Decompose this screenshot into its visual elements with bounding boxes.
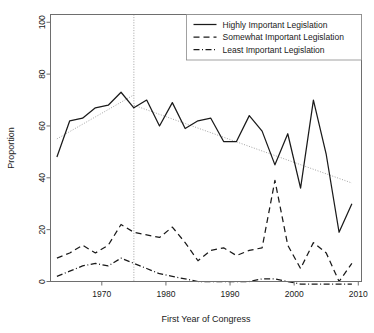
x-tick-label: 1990 [221, 289, 240, 299]
legend-label-2: Least Important Legislation [223, 45, 325, 55]
y-axis-title: Proportion [6, 127, 16, 169]
y-tick-label: 100 [37, 15, 47, 29]
y-tick-label: 20 [37, 225, 47, 235]
y-tick-label: 40 [37, 173, 47, 183]
chart-figure: 020406080100 19701980199020002010 Propor… [0, 0, 374, 333]
y-tick-label: 80 [37, 69, 47, 79]
proportion-by-congress-line-chart: 020406080100 19701980199020002010 Propor… [0, 0, 374, 333]
legend-label-0: Highly Important Legislation [223, 20, 328, 30]
x-tick-label: 2010 [349, 289, 368, 299]
y-tick-label: 60 [37, 121, 47, 131]
legend-label-1: Somewhat Important Legislation [223, 32, 345, 42]
x-axis-title: First Year of Congress [161, 314, 251, 324]
y-tick-label: 0 [37, 279, 47, 284]
x-tick-label: 2000 [285, 289, 304, 299]
x-tick-label: 1980 [156, 289, 175, 299]
x-tick-label: 1970 [92, 289, 111, 299]
chart-legend: Highly Important LegislationSomewhat Imp… [187, 15, 362, 61]
